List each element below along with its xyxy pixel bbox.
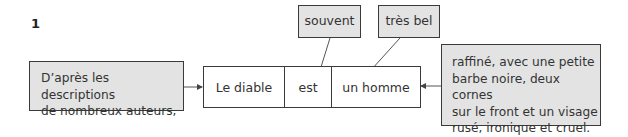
right-modifier-line: rusé, ironique et cruel.	[452, 120, 600, 137]
core-sentence-box: Le diable est un homme	[203, 66, 421, 108]
top-modifier-souvent: souvent	[298, 5, 361, 38]
top-modifier-tres-bel: très bel	[378, 5, 440, 38]
left-modifier-line: de nombreux auteurs,	[41, 103, 183, 120]
core-cell-complement: un homme	[331, 67, 420, 107]
core-cell-verb: est	[284, 67, 331, 107]
left-modifier-box: D’après les descriptions de nombreux aut…	[29, 61, 184, 111]
right-modifier-line: raffiné, avec une petite	[452, 54, 600, 71]
core-cell-subject: Le diable	[204, 67, 284, 107]
right-modifier-box: raffiné, avec une petite barbe noire, de…	[441, 44, 601, 126]
right-modifier-line: sur le front et un visage	[452, 104, 600, 121]
right-modifier-line: barbe noire, deux cornes	[452, 71, 600, 104]
left-modifier-line: D’après les descriptions	[41, 70, 183, 103]
